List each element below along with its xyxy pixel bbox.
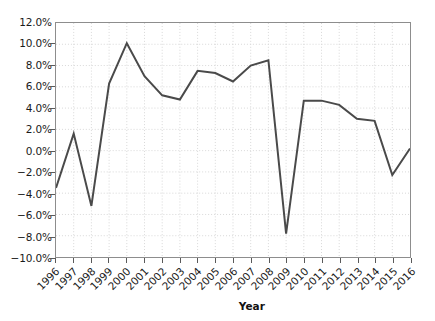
x-tick-mark [215,258,216,263]
x-tick-mark [286,258,287,263]
y-tick-label: −2.0% [17,166,52,178]
vertical-gridlines [74,23,393,257]
x-tick-mark [144,258,145,263]
x-tick-mark [233,258,234,263]
x-tick-mark [55,258,56,263]
plot-area [55,22,411,258]
x-tick-mark [108,258,109,263]
x-tick-mark [393,258,394,263]
x-tick-mark [197,258,198,263]
y-tick-label: −10.0% [10,252,52,264]
x-tick-mark [91,258,92,263]
y-tick-label: −6.0% [17,209,52,221]
plot-svg [56,23,410,257]
y-tick-label: 10.0% [19,37,52,49]
x-tick-mark [126,258,127,263]
x-axis-title: Year [239,300,265,312]
x-tick-mark [269,258,270,263]
x-tick-mark [340,258,341,263]
y-tick-label: −8.0% [17,231,52,243]
line-chart: 12.0%10.0%8.0%6.0%4.0%2.0%0.0%−2.0%−4.0%… [0,0,435,321]
x-tick-mark [322,258,323,263]
x-tick-mark [375,258,376,263]
x-tick-mark [411,258,412,263]
x-tick-mark [73,258,74,263]
y-tick-label: 12.0% [19,16,52,28]
x-tick-mark [304,258,305,263]
x-tick-mark [251,258,252,263]
x-tick-mark [180,258,181,263]
x-tick-mark [358,258,359,263]
x-tick-mark [162,258,163,263]
y-tick-label: −4.0% [17,188,52,200]
